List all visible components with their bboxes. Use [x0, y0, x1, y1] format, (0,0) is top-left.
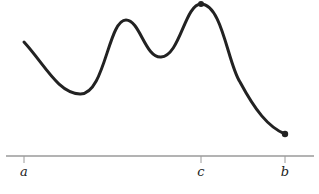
- label-a: a: [20, 164, 28, 179]
- label-c: c: [197, 164, 204, 179]
- max-point-c: [198, 1, 204, 7]
- endpoint-b: [282, 131, 288, 137]
- label-b: b: [281, 164, 289, 179]
- function-graph: [0, 0, 319, 194]
- function-curve: [24, 4, 285, 134]
